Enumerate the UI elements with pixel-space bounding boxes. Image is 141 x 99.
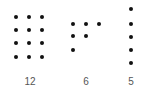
- dot: [129, 22, 133, 26]
- dot: [40, 28, 44, 32]
- dot: [84, 34, 88, 38]
- dot: [40, 41, 44, 45]
- group-label-5: 5: [116, 76, 141, 88]
- dot: [97, 22, 101, 26]
- group-label-6: 6: [71, 76, 101, 88]
- dot: [129, 48, 133, 52]
- dot: [129, 35, 133, 39]
- dot: [129, 7, 133, 11]
- dot-groups-diagram: 12 6 5: [0, 0, 141, 99]
- dot: [27, 41, 31, 45]
- dot: [14, 28, 18, 32]
- dot: [71, 22, 75, 26]
- dot: [27, 55, 31, 59]
- dot: [14, 41, 18, 45]
- dot: [27, 28, 31, 32]
- dot: [129, 61, 133, 65]
- dot: [71, 34, 75, 38]
- dot: [84, 22, 88, 26]
- dot: [71, 48, 75, 52]
- dot: [40, 55, 44, 59]
- group-label-12: 12: [15, 76, 45, 88]
- dot: [14, 55, 18, 59]
- dot: [40, 15, 44, 19]
- dot: [14, 15, 18, 19]
- dot: [27, 15, 31, 19]
